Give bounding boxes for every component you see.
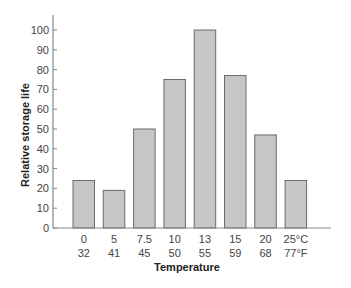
bars bbox=[73, 30, 307, 228]
y-tick-label: 70 bbox=[37, 83, 49, 95]
bar bbox=[194, 30, 216, 228]
bar bbox=[285, 180, 307, 228]
y-tick-label: 50 bbox=[37, 123, 49, 135]
x-tick-label-fahrenheit: 50 bbox=[169, 247, 181, 259]
x-tick-label-celsius: 7.5 bbox=[137, 233, 152, 245]
y-tick-label: 60 bbox=[37, 103, 49, 115]
y-tick-label: 80 bbox=[37, 64, 49, 76]
x-tick-label-celsius: 13 bbox=[199, 233, 211, 245]
bar bbox=[225, 76, 247, 228]
bar bbox=[164, 80, 186, 229]
x-tick-label-celsius: 0 bbox=[81, 233, 87, 245]
x-axis: 0325417.545105013551559206825°C77°F bbox=[53, 228, 331, 259]
bar bbox=[103, 190, 125, 228]
x-tick-label-fahrenheit: 45 bbox=[138, 247, 150, 259]
y-tick-label: 30 bbox=[37, 163, 49, 175]
bar bbox=[73, 180, 95, 228]
x-axis-title: Temperature bbox=[154, 261, 220, 273]
x-tick-label-celsius: 20 bbox=[259, 233, 271, 245]
x-tick-label-fahrenheit: 68 bbox=[259, 247, 271, 259]
x-tick-label-fahrenheit: 41 bbox=[108, 247, 120, 259]
x-tick-label-fahrenheit: 77°F bbox=[284, 247, 308, 259]
y-tick-label: 90 bbox=[37, 44, 49, 56]
bar bbox=[255, 135, 276, 228]
y-axis-title: Relative storage life bbox=[19, 83, 31, 187]
y-tick-label: 100 bbox=[31, 24, 49, 36]
x-tick-label-celsius: 5 bbox=[111, 233, 117, 245]
x-tick-label-celsius: 15 bbox=[229, 233, 241, 245]
y-tick-label: 10 bbox=[37, 202, 49, 214]
y-tick-label: 40 bbox=[37, 143, 49, 155]
y-tick-label: 0 bbox=[43, 222, 49, 234]
x-tick-label-celsius: 10 bbox=[169, 233, 181, 245]
bar-chart: 0102030405060708090100 0325417.545105013… bbox=[0, 0, 351, 288]
y-tick-label: 20 bbox=[37, 182, 49, 194]
x-tick-label-fahrenheit: 55 bbox=[199, 247, 211, 259]
bar bbox=[134, 129, 156, 228]
x-tick-label-fahrenheit: 32 bbox=[78, 247, 90, 259]
x-tick-label-celsius: 25°C bbox=[284, 233, 309, 245]
y-axis: 0102030405060708090100 bbox=[31, 15, 57, 234]
x-tick-label-fahrenheit: 59 bbox=[229, 247, 241, 259]
